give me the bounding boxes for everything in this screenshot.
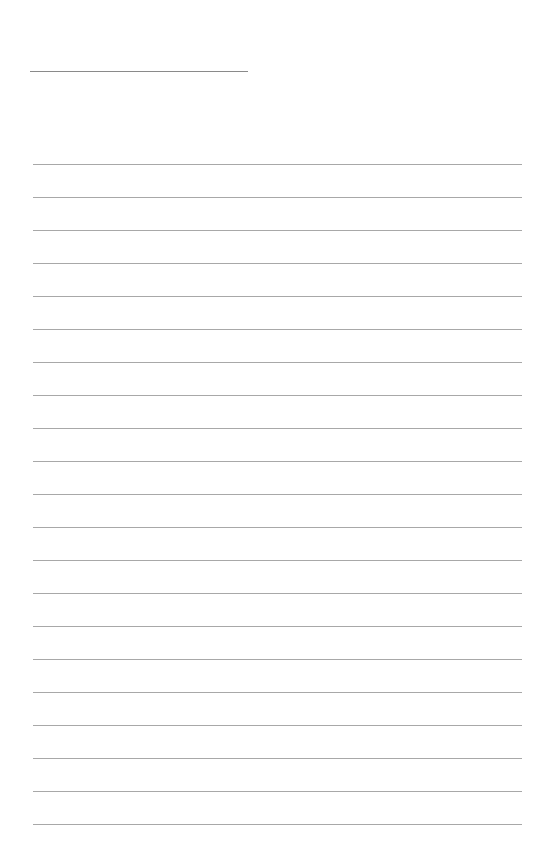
ruled-line [33,659,522,660]
ruled-line [33,494,522,495]
title-underline [30,71,248,72]
ruled-line [33,725,522,726]
ruled-line [33,758,522,759]
ruled-line [33,527,522,528]
ruled-line [33,824,522,825]
ruled-line [33,263,522,264]
ruled-line [33,296,522,297]
ruled-line [33,461,522,462]
ruled-line [33,197,522,198]
ruled-line [33,362,522,363]
ruled-line [33,230,522,231]
ruled-line [33,692,522,693]
ruled-line [33,791,522,792]
ruled-line [33,329,522,330]
ruled-line [33,428,522,429]
ruled-line [33,626,522,627]
ruled-line [33,395,522,396]
ruled-line [33,164,522,165]
ruled-line [33,560,522,561]
ruled-line [33,593,522,594]
